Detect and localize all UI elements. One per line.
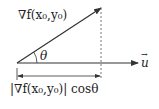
- projection-label: |∇f(x₀,y₀)| cosθ: [10, 82, 98, 96]
- directional-derivative-diagram: ∇f(x₀,y₀) θ u → |∇f(x₀,y₀)| cosθ: [0, 0, 159, 109]
- gradient-label: ∇f(x₀,y₀): [18, 8, 67, 22]
- diagram-svg: ∇f(x₀,y₀) θ u → |∇f(x₀,y₀)| cosθ: [0, 0, 159, 109]
- vector-accent-icon: →: [141, 50, 148, 59]
- angle-label: θ: [40, 49, 48, 63]
- angle-arc: [34, 52, 37, 63]
